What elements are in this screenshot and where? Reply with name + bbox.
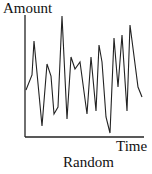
chart-title: Random (63, 155, 114, 170)
y-axis-label: Amount (3, 1, 52, 16)
data-series-line (26, 16, 142, 133)
x-axis-label: Time (116, 139, 147, 154)
